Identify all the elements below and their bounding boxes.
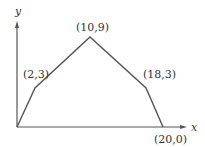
piecewise-graph: y x (2,3) (10,9) (18,3) (20,0) [0, 0, 205, 147]
point-label-2-3: (2,3) [23, 68, 49, 81]
graph-line [17, 37, 163, 127]
point-label-20-0: (20,0) [154, 133, 187, 146]
point-label-18-3: (18,3) [143, 68, 176, 81]
y-axis-label: y [14, 5, 22, 18]
x-axis-arrow-icon [180, 125, 187, 129]
y-axis-arrow-icon [15, 21, 19, 28]
point-label-10-9: (10,9) [76, 21, 109, 34]
x-axis-label: x [191, 121, 198, 134]
